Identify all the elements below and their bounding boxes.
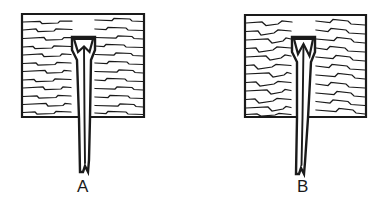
figure-container: A	[0, 0, 387, 208]
wood-splitting-diagram: A	[0, 0, 387, 208]
figure-label-a: A	[77, 177, 89, 196]
figure-label-b: B	[297, 177, 309, 196]
blade-center-split-line	[84, 47, 85, 163]
